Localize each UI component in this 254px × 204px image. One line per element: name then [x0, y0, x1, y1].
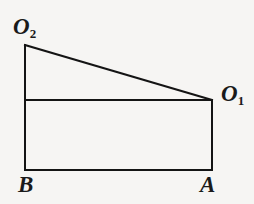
- vertex-label-B-base: B: [18, 172, 33, 197]
- vertex-label-O2-subscript: 2: [30, 26, 37, 41]
- vertex-label-O1-base: O: [221, 81, 238, 106]
- geometry-figure: O2 O1 B A: [0, 0, 254, 204]
- figure-canvas: [0, 0, 254, 204]
- figure-background: [0, 0, 254, 204]
- vertex-label-O2: O2: [13, 15, 36, 40]
- vertex-label-O1-subscript: 1: [238, 93, 245, 108]
- vertex-label-B: B: [18, 173, 33, 198]
- vertex-label-A: A: [200, 173, 215, 198]
- vertex-label-O1: O1: [221, 82, 244, 107]
- vertex-label-O2-base: O: [13, 14, 30, 39]
- vertex-label-A-base: A: [200, 172, 215, 197]
